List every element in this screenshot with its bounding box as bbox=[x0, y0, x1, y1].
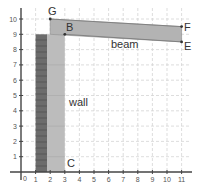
label-f: F bbox=[184, 21, 191, 33]
x-tick-labels: 1 2 3 4 5 6 7 8 9 10 11 0 bbox=[23, 175, 185, 183]
svg-text:9: 9 bbox=[13, 31, 17, 38]
svg-text:11: 11 bbox=[178, 176, 185, 183]
svg-text:8: 8 bbox=[13, 46, 17, 53]
svg-text:6: 6 bbox=[13, 77, 17, 84]
y-tick-labels: 1 2 3 4 5 6 7 8 9 10 bbox=[9, 16, 17, 161]
point-b bbox=[63, 33, 66, 36]
point-f bbox=[180, 25, 183, 28]
svg-text:3: 3 bbox=[13, 123, 17, 130]
geometry-diagram: 1 2 3 4 5 6 7 8 9 10 11 0 1 2 3 4 5 6 7 … bbox=[0, 0, 198, 187]
svg-text:0: 0 bbox=[23, 175, 27, 182]
svg-text:2: 2 bbox=[48, 176, 52, 183]
svg-text:6: 6 bbox=[107, 176, 111, 183]
point-e bbox=[180, 41, 183, 44]
svg-text:4: 4 bbox=[77, 176, 81, 183]
svg-text:7: 7 bbox=[13, 61, 17, 68]
wall-label: wall bbox=[68, 96, 88, 108]
svg-text:9: 9 bbox=[150, 176, 154, 183]
label-e: E bbox=[184, 40, 191, 52]
wall-light-region bbox=[47, 34, 65, 172]
svg-text:7: 7 bbox=[121, 176, 125, 183]
svg-text:5: 5 bbox=[92, 176, 96, 183]
svg-text:10: 10 bbox=[163, 176, 171, 183]
svg-text:5: 5 bbox=[13, 92, 17, 99]
svg-text:10: 10 bbox=[9, 16, 17, 23]
svg-text:2: 2 bbox=[13, 138, 17, 145]
label-c: C bbox=[67, 157, 75, 169]
wall-dark-region bbox=[36, 34, 47, 172]
svg-text:8: 8 bbox=[136, 176, 140, 183]
svg-text:1: 1 bbox=[34, 176, 38, 183]
svg-text:4: 4 bbox=[13, 107, 17, 114]
svg-text:3: 3 bbox=[63, 176, 67, 183]
label-b: B bbox=[66, 21, 73, 33]
beam-label: beam bbox=[111, 38, 139, 50]
svg-text:1: 1 bbox=[13, 153, 17, 160]
label-g: G bbox=[48, 5, 57, 17]
point-g bbox=[49, 18, 52, 21]
